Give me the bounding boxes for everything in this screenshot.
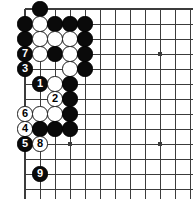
black-stone-move-3[interactable]: 3 [17, 61, 32, 76]
white-stone[interactable] [32, 106, 47, 121]
white-stone[interactable] [32, 31, 47, 46]
black-stone-move-5[interactable]: 5 [17, 136, 32, 151]
black-stone[interactable] [17, 16, 32, 31]
black-stone[interactable] [47, 16, 62, 31]
black-stone[interactable] [47, 121, 62, 136]
white-stone[interactable] [32, 16, 47, 31]
go-board-figure: 731264589 [0, 0, 193, 199]
white-stone[interactable] [32, 46, 47, 61]
black-stone[interactable] [62, 76, 77, 91]
stone-move-number: 7 [22, 48, 28, 59]
black-stone[interactable] [62, 91, 77, 106]
black-stone[interactable] [47, 46, 62, 61]
stone-move-number: 5 [22, 138, 28, 149]
black-stone[interactable] [77, 16, 92, 31]
stone-move-number: 6 [22, 108, 28, 119]
stone-move-number: 4 [22, 123, 28, 134]
stone-move-number: 1 [37, 78, 43, 89]
black-stone[interactable] [77, 31, 92, 46]
black-stone[interactable] [62, 106, 77, 121]
stone-move-number: 2 [52, 93, 58, 104]
black-stone-move-9[interactable]: 9 [32, 166, 47, 181]
black-stone[interactable] [62, 121, 77, 136]
white-stone[interactable] [62, 31, 77, 46]
white-stone-move-2[interactable]: 2 [47, 91, 62, 106]
black-stone[interactable] [32, 1, 47, 16]
stone-move-number: 8 [37, 138, 43, 149]
stone-move-number: 3 [22, 63, 28, 74]
white-stone-move-6[interactable]: 6 [17, 106, 32, 121]
black-stone[interactable] [62, 16, 77, 31]
black-stone[interactable] [32, 121, 47, 136]
white-stone[interactable] [47, 76, 62, 91]
stone-move-number: 9 [37, 168, 43, 179]
white-stone[interactable] [47, 31, 62, 46]
black-stone-move-1[interactable]: 1 [32, 76, 47, 91]
black-stone[interactable] [17, 31, 32, 46]
white-stone[interactable] [62, 46, 77, 61]
white-stone[interactable] [47, 106, 62, 121]
black-stone-move-7[interactable]: 7 [17, 46, 32, 61]
white-stone-move-4[interactable]: 4 [17, 121, 32, 136]
black-stone[interactable] [77, 61, 92, 76]
white-stone-move-8[interactable]: 8 [32, 136, 47, 151]
black-stone[interactable] [77, 46, 92, 61]
white-stone[interactable] [62, 61, 77, 76]
